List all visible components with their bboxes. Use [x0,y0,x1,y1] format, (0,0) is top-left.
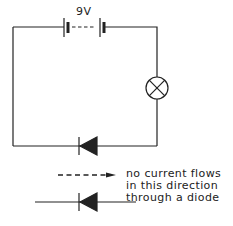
lamp-icon [146,77,168,99]
battery-voltage-label: 9V [76,6,91,18]
legend-line-3: through a diode [126,192,219,204]
wire-top-right [104,27,157,77]
dashed-arrow-icon [58,173,116,178]
battery-icon [64,18,104,37]
diode-icon [79,137,97,155]
legend-diode-icon [35,193,136,211]
